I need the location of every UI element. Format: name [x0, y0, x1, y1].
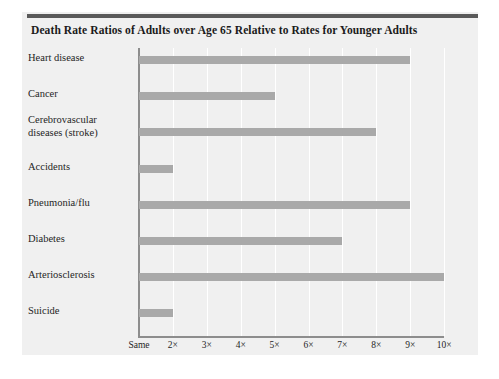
gridline	[275, 48, 276, 336]
gridline	[444, 48, 445, 336]
title-rule	[27, 14, 478, 18]
gridline	[410, 48, 411, 336]
category-label: Cerebrovasculardiseases (stroke)	[28, 114, 134, 139]
bar	[139, 309, 173, 317]
gridline	[241, 48, 242, 336]
gridline	[207, 48, 208, 336]
category-label: Accidents	[28, 161, 134, 174]
chart-title: Death Rate Ratios of Adults over Age 65 …	[31, 24, 475, 36]
gridline	[376, 48, 377, 336]
gridline	[309, 48, 310, 336]
plot-area	[139, 48, 444, 336]
bar	[139, 56, 410, 64]
category-label: Arteriosclerosis	[28, 269, 134, 282]
gridline	[342, 48, 343, 336]
bar	[139, 273, 444, 281]
category-label: Heart disease	[28, 52, 134, 65]
bar	[139, 237, 342, 245]
x-axis-line	[138, 336, 444, 338]
category-label: Pneumonia/flu	[28, 197, 134, 210]
category-label: Diabetes	[28, 233, 134, 246]
category-label: Suicide	[28, 305, 134, 318]
bar	[139, 92, 275, 100]
category-label: Cancer	[28, 88, 134, 101]
bar	[139, 201, 410, 209]
bar	[139, 128, 376, 136]
x-tick-label: 10×	[423, 340, 465, 350]
bar	[139, 165, 173, 173]
gridline	[173, 48, 174, 336]
